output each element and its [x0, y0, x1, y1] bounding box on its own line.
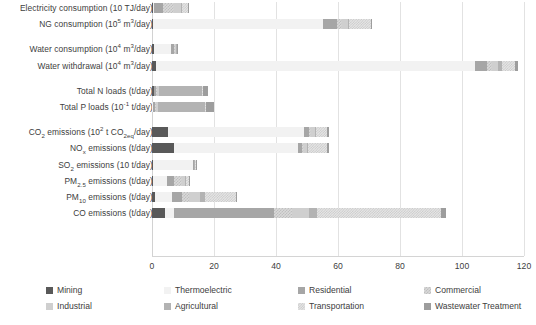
- segment-wastewater-treatment[interactable]: [441, 208, 447, 218]
- stacked-bar-ng-consumption-10-m-day[interactable]: [152, 19, 372, 29]
- segment-industrial[interactable]: [189, 192, 200, 202]
- legend-swatch-industrial: [46, 303, 53, 310]
- segment-wastewater-treatment[interactable]: [515, 61, 517, 71]
- segment-thermoelectric[interactable]: [168, 127, 304, 137]
- segment-wastewater-treatment[interactable]: [327, 127, 329, 137]
- segment-transportation[interactable]: [502, 61, 515, 71]
- legend-swatch-thermoelectric: [164, 287, 171, 294]
- legend-label-transportation: Transportation: [309, 301, 364, 311]
- segment-commercial[interactable]: [163, 3, 174, 13]
- segment-agricultural[interactable]: [309, 208, 317, 218]
- segment-mining[interactable]: [152, 208, 165, 218]
- stacked-bar-electricity-consumption-10-tj-day[interactable]: [152, 3, 189, 13]
- segment-thermoelectric[interactable]: [153, 176, 167, 186]
- segment-thermoelectric[interactable]: [153, 19, 324, 29]
- segment-thermoelectric[interactable]: [154, 44, 172, 54]
- segment-wastewater-treatment[interactable]: [236, 192, 238, 202]
- row-label-total-n-loads-t-day: Total N loads (t/day): [77, 86, 153, 96]
- stacked-bar-total-p-loads-10-t-day[interactable]: [152, 102, 214, 112]
- legend-swatch-commercial: [424, 287, 431, 294]
- row-label-electricity-consumption-10-tj-day: Electricity consumption (10 TJ/day): [20, 3, 153, 13]
- segment-mining[interactable]: [152, 127, 168, 137]
- stacked-bar-no-emissions-t-day[interactable]: [152, 143, 329, 153]
- stacked-bar-pm-emissions-t-day[interactable]: [152, 192, 237, 202]
- legend-item-wastewater-treatment[interactable]: Wastewater Treatment: [424, 301, 521, 311]
- x-tick-label-120: 120: [517, 261, 531, 271]
- segment-agricultural[interactable]: [159, 86, 201, 96]
- segment-agricultural[interactable]: [158, 102, 205, 112]
- stacked-bar-co-emissions-10-t-co-eq-day[interactable]: [152, 127, 329, 137]
- legend-swatch-transportation: [298, 303, 305, 310]
- bar-row-co-emissions-10-t-co-eq-day: CO2 emissions (102 t CO2eq/day): [0, 124, 536, 140]
- segment-thermoelectric[interactable]: [153, 160, 193, 170]
- segment-wastewater-treatment[interactable]: [327, 143, 328, 153]
- segment-residential[interactable]: [475, 61, 487, 71]
- stacked-bar-co-emissions-t-day[interactable]: [152, 208, 446, 218]
- segment-wastewater-treatment[interactable]: [206, 102, 214, 112]
- bar-row-co-emissions-t-day: CO emissions (t/day): [0, 205, 536, 221]
- x-tick-label-0: 0: [150, 261, 155, 271]
- legend-label-thermoelectric: Thermoelectric: [175, 285, 232, 295]
- segment-industrial[interactable]: [174, 3, 181, 13]
- segment-transportation[interactable]: [317, 208, 441, 218]
- row-label-co-emissions-10-t-co-eq-day: CO2 emissions (102 t CO2eq/day): [29, 127, 153, 137]
- row-label-so-emissions-10-t-day: SO2 emissions (10 t/day): [58, 160, 153, 170]
- stacked-bar-water-consumption-10-m-day[interactable]: [152, 44, 177, 54]
- segment-transportation[interactable]: [349, 19, 370, 29]
- bar-row-electricity-consumption-10-tj-day: Electricity consumption (10 TJ/day): [0, 0, 536, 16]
- x-tick-label-60: 60: [333, 261, 343, 271]
- segment-commercial[interactable]: [182, 192, 189, 202]
- segment-thermoelectric[interactable]: [156, 61, 475, 71]
- segment-transportation[interactable]: [205, 192, 236, 202]
- segment-residential[interactable]: [323, 19, 337, 29]
- row-label-ng-consumption-10-m-day: NG consumption (105 m3/day): [39, 19, 153, 29]
- bar-row-pm-emissions-t-day: PM10 emissions (t/day): [0, 189, 536, 205]
- chart-legend: MiningThermoelectricResidentialCommercia…: [0, 283, 536, 325]
- segment-wastewater-treatment[interactable]: [371, 19, 373, 29]
- segment-commercial[interactable]: [274, 208, 293, 218]
- legend-swatch-agricultural: [164, 303, 171, 310]
- stacked-bar-total-n-loads-t-day[interactable]: [152, 86, 208, 96]
- stacked-bar-water-withdrawal-10-m-day[interactable]: [152, 61, 518, 71]
- legend-label-mining: Mining: [57, 285, 82, 295]
- stacked-bar-chart: Electricity consumption (10 TJ/day)NG co…: [0, 0, 536, 325]
- segment-industrial[interactable]: [292, 208, 309, 218]
- row-label-pm-emissions-t-day: PM10 emissions (t/day): [66, 192, 153, 202]
- row-label-water-consumption-10-m-day: Water consumption (104 m3/day): [29, 44, 153, 54]
- segment-wastewater-treatment[interactable]: [188, 3, 189, 13]
- segment-mining[interactable]: [152, 143, 174, 153]
- legend-item-industrial[interactable]: Industrial: [46, 301, 92, 311]
- legend-label-commercial: Commercial: [435, 285, 481, 295]
- segment-residential[interactable]: [174, 208, 273, 218]
- legend-item-residential[interactable]: Residential: [298, 285, 352, 295]
- bar-row-water-withdrawal-10-m-day: Water withdrawal (104 m3/day): [0, 58, 536, 74]
- legend-item-transportation[interactable]: Transportation: [298, 301, 364, 311]
- row-label-total-p-loads-10-t-day: Total P loads (10-1 t/day): [60, 102, 153, 112]
- row-group-spacer: [0, 115, 536, 124]
- segment-thermoelectric[interactable]: [174, 143, 298, 153]
- segment-residential[interactable]: [167, 176, 174, 186]
- segment-wastewater-treatment[interactable]: [177, 44, 178, 54]
- legend-label-agricultural: Agricultural: [175, 301, 218, 311]
- legend-item-thermoelectric[interactable]: Thermoelectric: [164, 285, 232, 295]
- segment-wastewater-treatment[interactable]: [203, 86, 208, 96]
- legend-item-mining[interactable]: Mining: [46, 285, 82, 295]
- legend-item-agricultural[interactable]: Agricultural: [164, 301, 218, 311]
- segment-wastewater-treatment[interactable]: [189, 176, 190, 186]
- legend-label-industrial: Industrial: [57, 301, 92, 311]
- bar-row-so-emissions-10-t-day: SO2 emissions (10 t/day): [0, 157, 536, 173]
- segment-thermoelectric[interactable]: [155, 192, 172, 202]
- segment-commercial[interactable]: [174, 176, 182, 186]
- stacked-bar-so-emissions-10-t-day[interactable]: [152, 160, 196, 170]
- segment-residential[interactable]: [172, 192, 182, 202]
- bar-row-pm-emissions-t-day: PM2.5 emissions (t/day): [0, 173, 536, 189]
- stacked-bar-pm-emissions-t-day[interactable]: [152, 176, 189, 186]
- legend-item-commercial[interactable]: Commercial: [424, 285, 481, 295]
- legend-swatch-wastewater-treatment: [424, 303, 431, 310]
- bar-rows: Electricity consumption (10 TJ/day)NG co…: [0, 0, 536, 221]
- row-label-co-emissions-t-day: CO emissions (t/day): [73, 208, 153, 218]
- segment-transportation[interactable]: [308, 143, 327, 153]
- segment-transportation[interactable]: [316, 127, 327, 137]
- segment-residential[interactable]: [154, 3, 163, 13]
- segment-thermoelectric[interactable]: [165, 208, 174, 218]
